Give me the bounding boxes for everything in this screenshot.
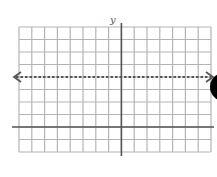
- grid-lines: [19, 27, 211, 152]
- y-axis-label: y: [109, 14, 116, 25]
- coordinate-grid: y: [0, 0, 217, 177]
